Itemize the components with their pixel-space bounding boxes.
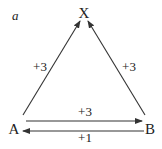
- edge-b-to-x-label: +3: [122, 59, 136, 74]
- edge-a-to-x-arrow: [23, 21, 80, 115]
- node-b: B: [145, 121, 155, 137]
- node-x: X: [79, 5, 90, 21]
- edge-a-to-x-label: +3: [33, 59, 47, 74]
- edge-b-to-a-label: +1: [78, 130, 92, 145]
- panel-label: a: [12, 8, 19, 23]
- node-a: A: [9, 121, 20, 137]
- edge-b-to-x-arrow: [88, 21, 145, 115]
- triangle-diagram: a X A B +3 +3 +3 +1: [0, 0, 162, 149]
- edge-a-to-b-label: +3: [78, 104, 92, 119]
